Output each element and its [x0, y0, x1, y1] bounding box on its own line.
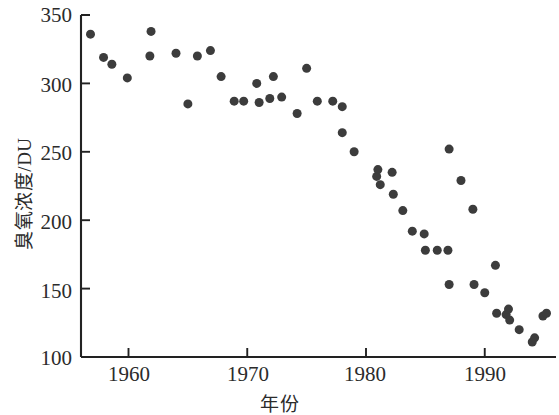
x-axis-title: 年份	[0, 389, 559, 415]
y-tick-label-250: 250	[16, 143, 72, 164]
x-tick-label-1960: 1960	[94, 364, 164, 385]
data-point	[172, 49, 181, 58]
data-point	[445, 145, 454, 154]
y-tick-label-100: 100	[16, 348, 72, 369]
y-tick-label-300: 300	[16, 75, 72, 96]
data-point	[293, 109, 302, 118]
y-tick-label-150: 150	[16, 281, 72, 302]
data-point	[145, 52, 154, 61]
data-point	[230, 97, 239, 106]
data-point	[468, 205, 477, 214]
data-point	[255, 98, 264, 107]
data-point	[421, 246, 430, 255]
data-point	[99, 53, 108, 62]
data-point	[388, 168, 397, 177]
data-point	[193, 52, 202, 61]
data-point	[389, 190, 398, 199]
y-tick-label-200: 200	[16, 212, 72, 233]
data-point	[107, 60, 116, 69]
data-point	[443, 246, 452, 255]
data-point	[408, 227, 417, 236]
data-point	[338, 128, 347, 137]
data-point	[420, 229, 429, 238]
y-axis-title: 臭氧浓度/DU	[9, 94, 36, 294]
data-point	[269, 72, 278, 81]
data-point	[217, 72, 226, 81]
data-point	[328, 97, 337, 106]
y-tick-label-350: 350	[16, 5, 72, 26]
data-point	[542, 309, 551, 318]
data-point	[480, 288, 489, 297]
data-point	[86, 30, 95, 39]
data-point	[504, 305, 513, 314]
data-point	[183, 99, 192, 108]
data-point	[376, 180, 385, 189]
data-point	[313, 97, 322, 106]
x-tick-label-1990: 1990	[450, 364, 520, 385]
data-point	[445, 280, 454, 289]
x-tick-label-1980: 1980	[330, 364, 400, 385]
data-point	[373, 165, 382, 174]
data-point	[147, 27, 156, 36]
data-point	[492, 309, 501, 318]
data-point	[350, 147, 359, 156]
data-points	[86, 27, 551, 347]
data-point	[470, 280, 479, 289]
x-tick-label-1970: 1970	[213, 364, 283, 385]
data-point	[398, 206, 407, 215]
data-point	[530, 333, 539, 342]
data-point	[505, 316, 514, 325]
axes	[81, 15, 556, 357]
data-point	[515, 325, 524, 334]
data-point	[433, 246, 442, 255]
data-point	[252, 79, 261, 88]
data-point	[123, 73, 132, 82]
data-point	[338, 102, 347, 111]
data-point	[457, 176, 466, 185]
data-point	[491, 261, 500, 270]
data-point	[239, 97, 248, 106]
data-point	[265, 94, 274, 103]
data-point	[277, 93, 286, 102]
plot-canvas	[0, 0, 559, 415]
data-point	[302, 64, 311, 73]
data-point	[206, 46, 215, 55]
ozone-scatter-chart: 臭氧浓度/DU 年份 350 300 250 200 150 100 1960 …	[0, 0, 559, 415]
